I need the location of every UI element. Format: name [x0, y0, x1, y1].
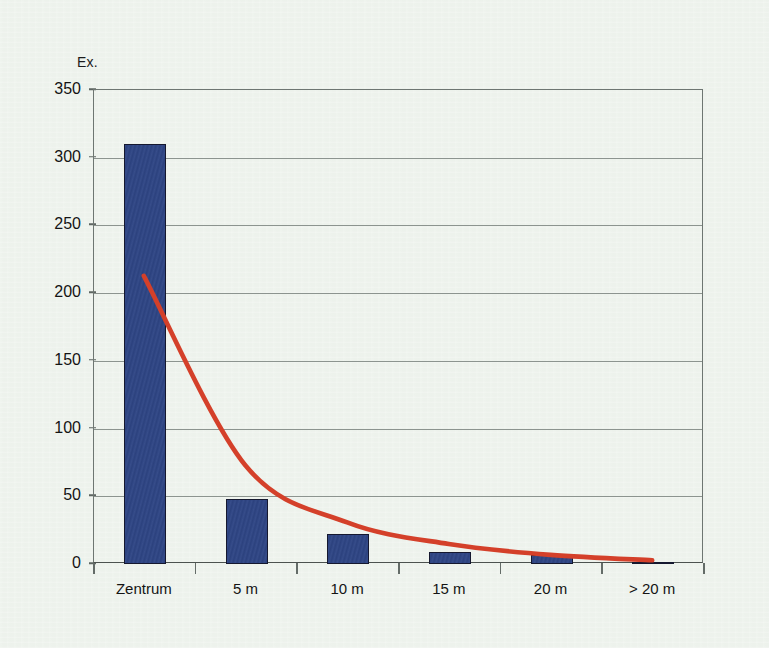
gridline	[94, 225, 702, 226]
x-tick-label: 20 m	[534, 580, 567, 597]
bar	[226, 499, 268, 564]
gridline	[94, 293, 702, 294]
y-tick-label: 0	[29, 554, 81, 572]
y-tick-label: 100	[29, 419, 81, 437]
x-tick-mark	[398, 563, 400, 574]
y-tick-label: 50	[29, 486, 81, 504]
y-axis-title: Ex.	[77, 54, 98, 70]
plot-area	[93, 89, 703, 563]
x-tick-label: 5 m	[233, 580, 258, 597]
x-tick-label: 10 m	[330, 580, 363, 597]
y-tick-label: 350	[29, 80, 81, 98]
x-tick-label: > 20 m	[629, 580, 675, 597]
gridline	[94, 429, 702, 430]
bar	[429, 552, 471, 564]
y-tick-label: 250	[29, 215, 81, 233]
y-tick-label: 300	[29, 148, 81, 166]
x-tick-label: Zentrum	[116, 580, 172, 597]
bar	[327, 534, 369, 564]
gridline	[94, 361, 702, 362]
gridline	[94, 496, 702, 497]
gridline	[94, 158, 702, 159]
bar	[531, 555, 573, 564]
y-tick-label: 200	[29, 283, 81, 301]
x-tick-mark	[93, 563, 95, 574]
x-tick-label: 15 m	[432, 580, 465, 597]
x-tick-mark	[296, 563, 298, 574]
x-tick-mark	[601, 563, 603, 574]
bar	[124, 144, 166, 564]
chart-figure: Ex. 050100150200250300350 Zentrum5 m10 m…	[0, 0, 769, 648]
bar	[632, 562, 674, 565]
x-tick-mark	[500, 563, 502, 574]
x-tick-mark	[195, 563, 197, 574]
y-tick-label: 150	[29, 351, 81, 369]
x-tick-mark	[703, 563, 705, 574]
